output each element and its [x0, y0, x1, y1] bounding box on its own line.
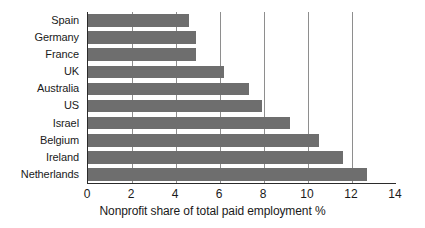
x-axis-title: Nonprofit share of total paid employment…: [0, 204, 425, 218]
category-label: Australia: [0, 80, 83, 97]
x-tick-label: 4: [172, 186, 179, 202]
category-label: Belgium: [0, 132, 83, 149]
x-tick-label: 0: [84, 186, 91, 202]
category-label: US: [0, 97, 83, 114]
category-label: Netherlands: [0, 166, 83, 183]
bar-ireland: [88, 151, 343, 164]
category-label: Spain: [0, 12, 83, 29]
bar-row: [88, 166, 396, 183]
category-label: Ireland: [0, 149, 83, 166]
bar-australia: [88, 83, 249, 96]
bar-row: [88, 29, 396, 46]
bar-israel: [88, 117, 290, 130]
bar-row: [88, 132, 396, 149]
x-tick-label: 6: [216, 186, 223, 202]
bar-chart: Spain Germany France UK Australia US Isr…: [0, 0, 425, 228]
bars-layer: [88, 12, 396, 183]
x-tick-label: 2: [128, 186, 135, 202]
x-tick-label: 10: [300, 186, 313, 202]
bar-us: [88, 100, 262, 113]
bar-uk: [88, 66, 224, 79]
x-axis-tick-labels: 02468101214: [0, 186, 425, 202]
category-label: Israel: [0, 115, 83, 132]
bar-row: [88, 149, 396, 166]
x-tick-label: 14: [388, 186, 401, 202]
bar-row: [88, 63, 396, 80]
x-tick-label: 12: [344, 186, 357, 202]
bar-row: [88, 46, 396, 63]
x-tick-label: 8: [260, 186, 267, 202]
category-label: Germany: [0, 29, 83, 46]
bar-belgium: [88, 134, 319, 147]
bar-row: [88, 12, 396, 29]
plot-area: [87, 12, 396, 184]
bar-germany: [88, 31, 196, 44]
bar-row: [88, 97, 396, 114]
category-label: France: [0, 46, 83, 63]
category-label: UK: [0, 63, 83, 80]
bar-row: [88, 115, 396, 132]
bar-netherlands: [88, 168, 367, 181]
y-axis-category-labels: Spain Germany France UK Australia US Isr…: [0, 12, 83, 183]
bar-france: [88, 48, 196, 61]
bar-spain: [88, 14, 189, 27]
bar-row: [88, 80, 396, 97]
